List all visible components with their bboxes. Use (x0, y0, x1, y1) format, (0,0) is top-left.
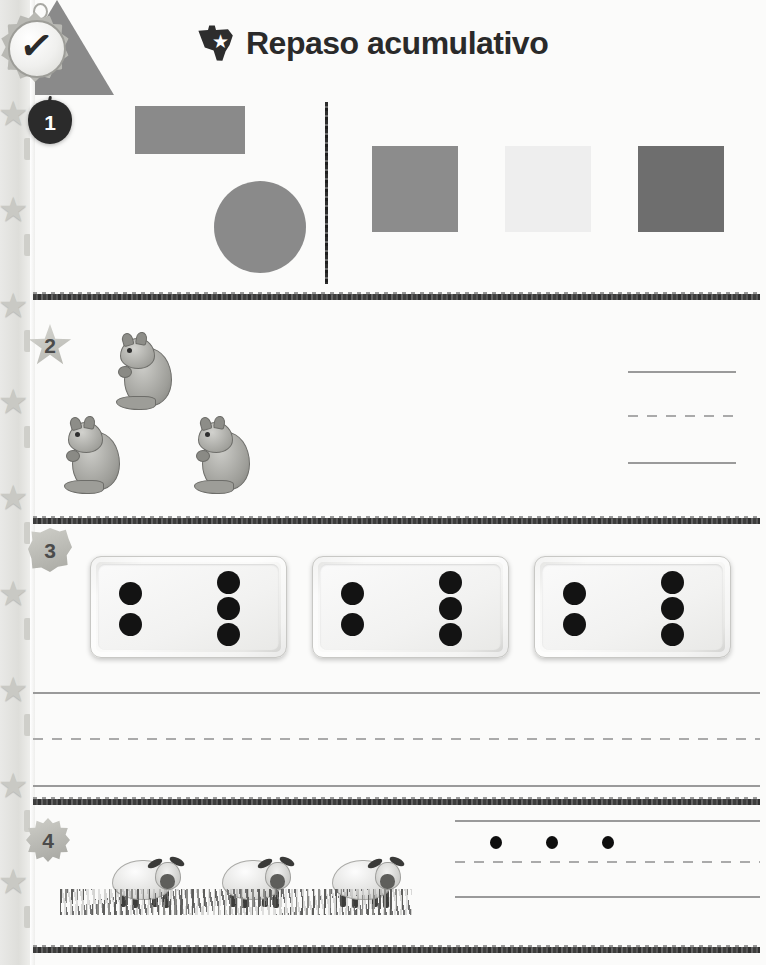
grass-strip (60, 889, 412, 915)
squirrel-paw (196, 450, 210, 462)
squirrel-eye (127, 348, 132, 353)
practice-dot (602, 836, 614, 849)
ribbon-star-icon: ★ (0, 576, 33, 610)
domino-face (542, 564, 723, 650)
ribbon-star-icon: ★ (0, 768, 33, 802)
ribbon-star-icon: ★ (0, 672, 33, 706)
answer-line-bottom[interactable] (33, 785, 760, 787)
problem-number-label: 2 (44, 335, 56, 356)
domino-pip (439, 597, 462, 620)
domino-pip (439, 623, 462, 646)
ribbon-star-icon: ★ (0, 384, 33, 418)
domino-tile (534, 556, 731, 658)
square-light-gray (505, 146, 591, 232)
squirrel-image (58, 410, 150, 496)
ribbon-star-icon: ★ (0, 192, 33, 226)
domino-face (320, 564, 501, 650)
medal-disc: ✓ (8, 20, 66, 78)
squirrel-paw (118, 366, 132, 378)
section-band-3 (33, 799, 760, 805)
domino-pip (661, 597, 684, 620)
domino-pip (341, 613, 364, 636)
problem-number-1-apple-badge: 1 (28, 100, 72, 144)
squirrel-foot (116, 396, 156, 410)
squirrel-eye (75, 432, 80, 437)
practice-dot (490, 836, 502, 849)
domino-pip (661, 623, 684, 646)
section-band-2 (33, 518, 760, 524)
answer-line-middle-dashed[interactable] (628, 415, 736, 417)
sheep-face (380, 874, 395, 889)
squirrel-image (110, 326, 202, 412)
domino-pip (217, 597, 240, 620)
answer-line-bottom[interactable] (628, 462, 736, 464)
domino-pip (661, 571, 684, 594)
domino-pip (217, 623, 240, 646)
problem-number-2-star-badge: 2 (28, 323, 72, 367)
page-title: Repaso acumulativo (246, 25, 548, 62)
star-glyph-icon: ★ (212, 32, 229, 51)
squirrel-foot (194, 480, 234, 494)
problem-number-3-leaf-badge: 3 (28, 528, 72, 572)
texas-star-icon: ★ (196, 24, 236, 62)
check-icon: ✓ (17, 24, 56, 68)
shape-circle (214, 181, 306, 273)
square-dark-gray (638, 146, 724, 232)
squirrel-ear-right (213, 415, 226, 430)
domino-tile (312, 556, 509, 658)
domino-pip (439, 571, 462, 594)
checkmark-medal-icon: ✓ (0, 2, 74, 88)
domino-face (98, 564, 279, 650)
page-header: ★ Repaso acumulativo (196, 24, 548, 62)
squirrel-image (188, 410, 280, 496)
domino-tile (90, 556, 287, 658)
answer-line-top[interactable] (33, 692, 760, 694)
domino-pip (119, 582, 142, 605)
domino-pip (217, 571, 240, 594)
answer-line-bottom[interactable] (455, 896, 760, 898)
section-band-1 (33, 294, 760, 300)
domino-pip (563, 582, 586, 605)
ribbon-star-icon: ★ (0, 480, 33, 514)
square-medium-gray (372, 146, 458, 232)
vertical-divider (325, 102, 328, 284)
squirrel-eye (205, 432, 210, 437)
answer-line-middle-dashed[interactable] (455, 861, 760, 863)
problem-number-label: 4 (42, 830, 54, 851)
ribbon-star-icon: ★ (0, 864, 33, 898)
problem-number-label: 3 (44, 540, 56, 561)
answer-line-middle-dashed[interactable] (33, 738, 760, 740)
domino-pip (119, 613, 142, 636)
problem-number-label: 1 (44, 112, 56, 133)
sheep-face (160, 874, 175, 889)
shape-rectangle (135, 106, 245, 154)
domino-pip (563, 613, 586, 636)
squirrel-ear-right (83, 415, 96, 430)
section-band-4 (33, 947, 760, 953)
answer-line-top[interactable] (628, 371, 736, 373)
sheep-face (270, 874, 285, 889)
squirrel-foot (64, 480, 104, 494)
squirrel-paw (66, 450, 80, 462)
answer-line-top[interactable] (455, 820, 760, 822)
practice-dot (546, 836, 558, 849)
problem-number-4-gear-badge: 4 (26, 818, 70, 862)
squirrel-ear-right (135, 331, 148, 346)
ribbon-star-icon: ★ (0, 288, 33, 322)
domino-pip (341, 582, 364, 605)
